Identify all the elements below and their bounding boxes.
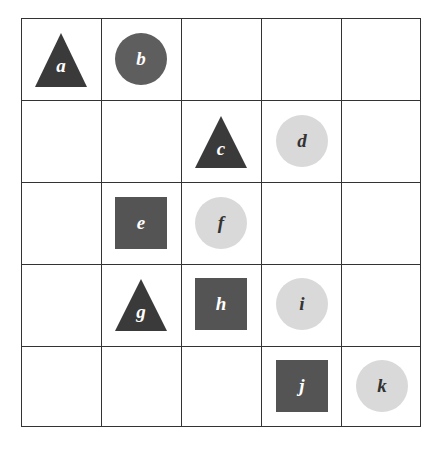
grid-line [22,100,420,102]
circle-shape-k: k [356,360,408,412]
grid-line [101,19,103,426]
triangle-shape-a: a [35,33,87,87]
square-shape-j: j [276,360,328,412]
grid-line [261,19,263,426]
triangle-shape-c: c [195,116,247,170]
circle-shape-b: b [115,33,167,85]
grid-line [341,19,343,426]
grid-line [181,19,183,426]
grid-line [22,346,420,348]
grid-line [22,264,420,266]
circle-shape-f: f [195,197,247,249]
square-shape-e: e [115,197,167,249]
shape-label: a [35,55,87,77]
grid-line [22,182,420,184]
shape-label: g [115,301,167,323]
shape-label: c [195,138,247,160]
square-shape-h: h [195,278,247,330]
circle-shape-i: i [276,278,328,330]
triangle-shape-g: g [115,279,167,333]
circle-shape-d: d [276,115,328,167]
